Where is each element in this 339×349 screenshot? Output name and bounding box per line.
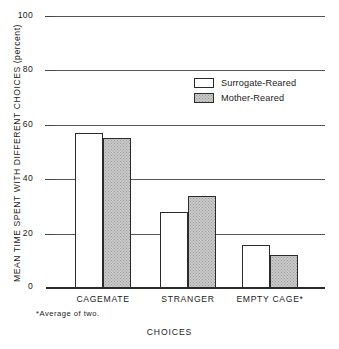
y-axis-title: MEAN TIME SPENT WITH DIFFERENT CHOICES (…	[12, 8, 22, 298]
footnote: *Average of two.	[36, 309, 100, 318]
plot-area: 100 80 60 40 20 0	[55, 16, 325, 288]
tick-40	[45, 179, 55, 180]
y-tick-label-0: 0	[0, 281, 33, 291]
tick-20	[45, 234, 55, 235]
y-tick-label-100: 100	[0, 10, 33, 20]
legend-label-mother-reared: Mother-Reared	[221, 93, 284, 103]
gridline-100	[55, 16, 325, 17]
tick-60	[45, 125, 55, 126]
bar-emptycage-mother	[270, 255, 298, 288]
gridline-60	[55, 125, 325, 126]
legend-swatch-surrogate-icon	[194, 78, 214, 88]
y-tick-label-80: 80	[0, 64, 33, 74]
y-tick-label-60: 60	[0, 119, 33, 129]
legend: Surrogate-Reared Mother-Reared	[194, 76, 296, 106]
tick-80	[45, 70, 55, 71]
bar-cagemate-surrogate	[75, 133, 103, 288]
legend-item-mother-reared: Mother-Reared	[194, 91, 296, 104]
legend-swatch-mother-icon	[194, 93, 214, 103]
tick-100	[45, 16, 55, 17]
x-category-label-emptycage: EMPTY CAGE*	[222, 294, 318, 304]
bar-cagemate-mother	[103, 138, 131, 288]
x-axis-title: CHOICES	[0, 327, 339, 337]
y-tick-label-40: 40	[0, 173, 33, 183]
bar-stranger-surrogate	[160, 212, 188, 288]
bar-chart-figure: MEAN TIME SPENT WITH DIFFERENT CHOICES (…	[0, 0, 339, 349]
gridline-80	[55, 70, 325, 71]
y-tick-label-20: 20	[0, 228, 33, 238]
x-category-label-cagemate: CAGEMATE	[55, 294, 151, 304]
legend-item-surrogate-reared: Surrogate-Reared	[194, 76, 296, 89]
bar-emptycage-surrogate	[242, 245, 270, 289]
legend-label-surrogate-reared: Surrogate-Reared	[221, 78, 296, 88]
bar-stranger-mother	[188, 196, 216, 289]
